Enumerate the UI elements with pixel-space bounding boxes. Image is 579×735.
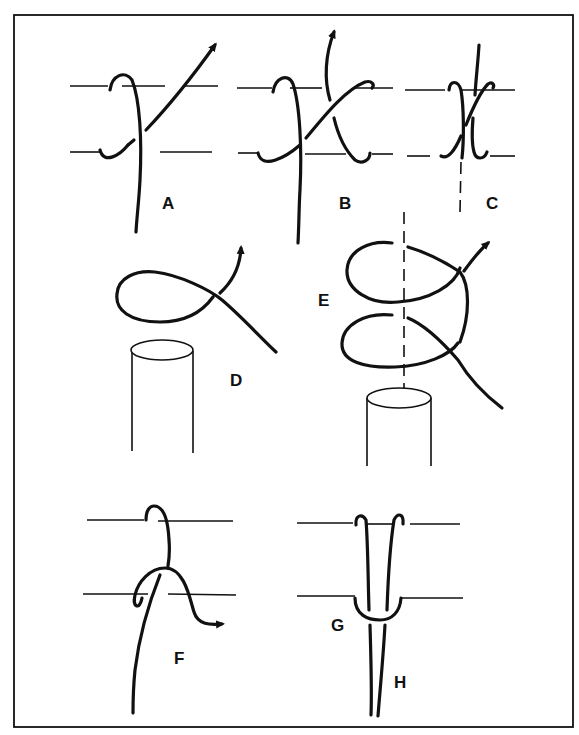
label-h: H [394, 673, 406, 692]
panel-d: D [117, 248, 276, 453]
panel-c: C [405, 45, 515, 213]
label-c: C [486, 194, 498, 213]
label-g: G [331, 616, 344, 635]
panel-gh: G H [297, 515, 463, 716]
label-e: E [318, 291, 329, 310]
panel-e: E [318, 242, 502, 466]
panel-a: A [70, 45, 218, 232]
panel-b: B [237, 32, 393, 243]
figure-frame [14, 15, 573, 727]
panel-f: F [83, 506, 236, 713]
label-f: F [174, 649, 184, 668]
label-d: D [230, 371, 242, 390]
label-a: A [162, 194, 174, 213]
label-b: B [339, 194, 351, 213]
knot-diagram: A B C D [0, 0, 579, 735]
